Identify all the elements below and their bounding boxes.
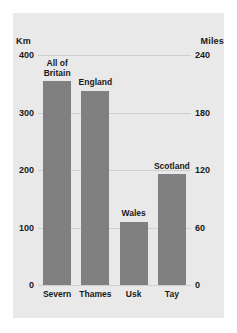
bar-annotation-usk: Wales [108, 209, 160, 219]
bar-thames[interactable] [81, 91, 109, 285]
left-axis-tick-labels: 400 300 200 100 0 [6, 55, 34, 285]
bar-usk[interactable] [120, 222, 148, 285]
bar-annotation-tay: Scotland [146, 162, 198, 172]
plot-area: All of Britain England Wales Scotland [38, 55, 191, 285]
right-tick-240: 240 [195, 50, 221, 60]
category-label-tay: Tay [146, 289, 198, 299]
left-tick-400: 400 [8, 50, 34, 60]
bar-tay[interactable] [158, 174, 186, 285]
left-axis-title: Km [16, 36, 31, 46]
left-tick-0: 0 [8, 280, 34, 290]
right-tick-60: 60 [195, 223, 221, 233]
gridline-0 [38, 285, 191, 286]
left-tick-200: 200 [8, 165, 34, 175]
category-axis-labels: Severn Thames Usk Tay [38, 289, 191, 303]
right-tick-0: 0 [195, 280, 221, 290]
right-tick-120: 120 [195, 165, 221, 175]
right-axis-title: Miles [200, 36, 224, 46]
bar-chart-figure: Km Miles 400 300 200 100 0 240 180 120 6… [0, 0, 237, 333]
left-tick-100: 100 [8, 223, 34, 233]
gridline-400 [38, 55, 191, 56]
bar-severn[interactable] [43, 81, 71, 285]
left-tick-300: 300 [8, 108, 34, 118]
right-tick-180: 180 [195, 108, 221, 118]
right-axis-tick-labels: 240 180 120 60 0 [195, 55, 225, 285]
bar-annotation-severn: All of Britain [31, 59, 83, 78]
bar-annotation-thames: England [69, 78, 121, 88]
